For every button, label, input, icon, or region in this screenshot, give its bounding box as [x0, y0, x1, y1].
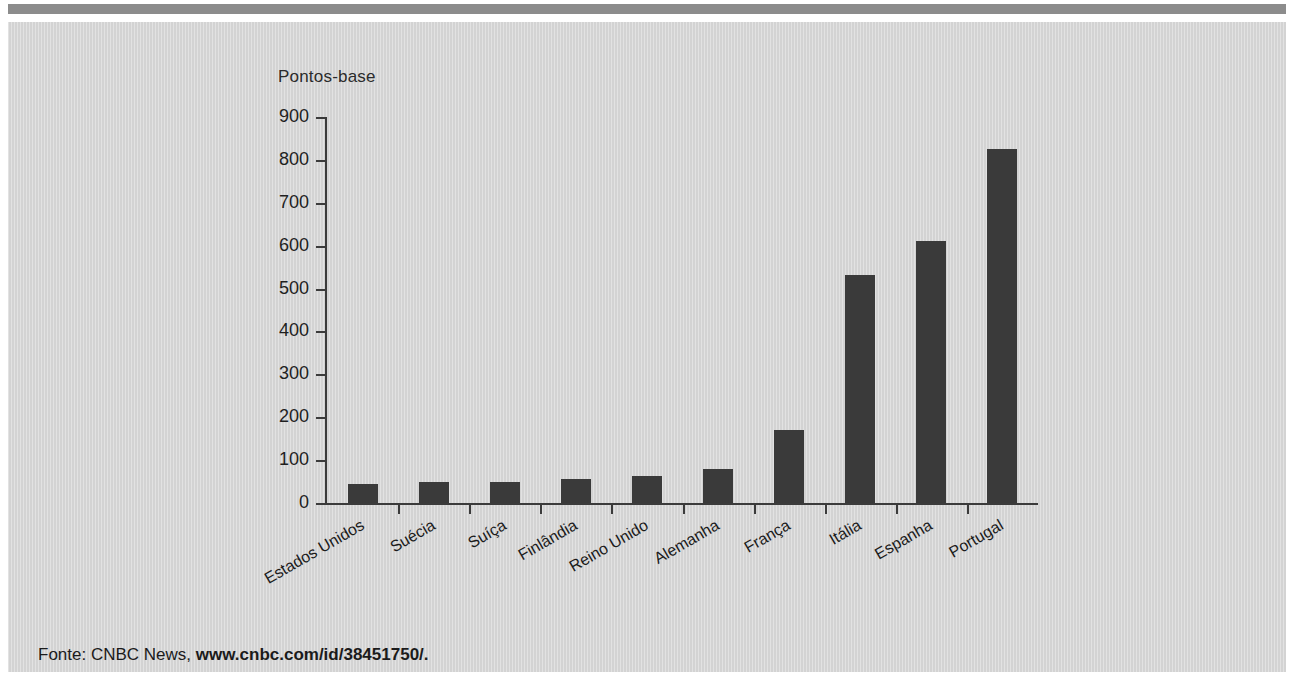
- y-tick-mark: 300: [316, 374, 325, 376]
- y-tick-mark: 100: [316, 460, 325, 462]
- y-axis-unit-caption: Pontos-base: [278, 67, 376, 87]
- x-tick-mark: [398, 505, 400, 514]
- x-tick-mark: [683, 505, 685, 514]
- y-tick-mark: 500: [316, 289, 325, 291]
- bar: [490, 482, 520, 503]
- bar: [561, 479, 591, 503]
- y-tick-mark: 600: [316, 246, 325, 248]
- bar: [348, 484, 378, 503]
- figure-container: Pontos-base 0100200300400500600700800900…: [0, 0, 1312, 677]
- bar: [703, 469, 733, 503]
- bar: [916, 241, 946, 503]
- bar: [632, 476, 662, 503]
- x-tick-mark: [469, 505, 471, 514]
- y-tick-label: 300: [279, 363, 309, 384]
- y-tick-label: 400: [279, 320, 309, 341]
- chart-panel: Pontos-base 0100200300400500600700800900…: [8, 22, 1286, 672]
- bar-series: [327, 117, 1038, 503]
- bar: [987, 149, 1017, 503]
- bar: [419, 482, 449, 503]
- y-tick-mark: 900: [316, 117, 325, 119]
- source-caption: Fonte: CNBC News, www.cnbc.com/id/384517…: [38, 645, 429, 665]
- plot-area: 0100200300400500600700800900 Estados Uni…: [325, 117, 1038, 503]
- top-rule-divider: [8, 4, 1286, 14]
- source-url-text: www.cnbc.com/id/38451750/.: [196, 645, 429, 664]
- y-tick-label: 200: [279, 406, 309, 427]
- bar: [845, 275, 875, 503]
- source-prefix-text: Fonte: CNBC News,: [38, 645, 191, 664]
- y-tick-mark: 700: [316, 203, 325, 205]
- x-tick-mark: [754, 505, 756, 514]
- y-tick-label: 100: [279, 449, 309, 470]
- y-tick-label: 0: [299, 492, 309, 513]
- y-tick-mark: 200: [316, 417, 325, 419]
- y-tick-label: 800: [279, 149, 309, 170]
- y-tick-mark: 0: [316, 503, 325, 505]
- y-tick-mark: 800: [316, 160, 325, 162]
- x-tick-mark: [540, 505, 542, 514]
- y-tick-label: 700: [279, 192, 309, 213]
- x-tick-mark: [825, 505, 827, 514]
- x-tick-mark: [967, 505, 969, 514]
- x-axis-line: [325, 503, 1038, 505]
- x-tick-mark: [611, 505, 613, 514]
- x-tick-mark: [896, 505, 898, 514]
- y-tick-label: 600: [279, 235, 309, 256]
- bar: [774, 430, 804, 503]
- y-tick-label: 900: [279, 106, 309, 127]
- y-tick-label: 500: [279, 278, 309, 299]
- y-tick-mark: 400: [316, 331, 325, 333]
